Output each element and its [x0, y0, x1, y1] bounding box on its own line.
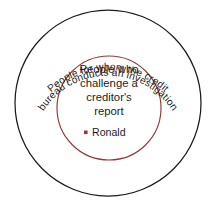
inner-set-label-line-4: report [94, 105, 124, 117]
member-bullet-icon [84, 131, 88, 135]
inner-set-label-line-2: challenge a [80, 77, 139, 89]
member-label-ronald: Ronald [92, 126, 126, 138]
inner-set-label-line-3: creditor's [86, 91, 132, 103]
nested-set-diagram: People for whom the credit bureau conduc… [0, 0, 217, 207]
inner-set-label-line-1: People who [79, 63, 138, 75]
diagram-canvas: People for whom the credit bureau conduc… [0, 0, 217, 207]
